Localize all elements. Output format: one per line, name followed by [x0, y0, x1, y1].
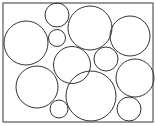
circle-11 [50, 100, 68, 118]
circle-2 [4, 21, 48, 65]
circle-group [4, 3, 154, 121]
circle-6 [54, 47, 91, 84]
circle-4 [68, 6, 112, 50]
circle-7 [94, 47, 118, 71]
circle-12 [117, 97, 141, 121]
circle-1 [45, 3, 69, 27]
circle-9 [66, 71, 116, 121]
circle-8 [16, 66, 58, 108]
circle-5 [110, 16, 150, 56]
circle-10 [116, 59, 154, 97]
circle-packing-diagram [0, 0, 157, 126]
circle-3 [49, 30, 66, 47]
